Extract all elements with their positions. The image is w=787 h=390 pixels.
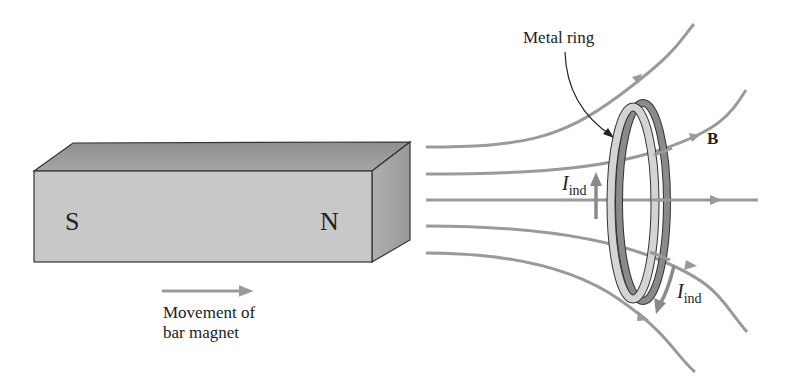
field-line-4	[426, 226, 747, 332]
movement-label-line1: Movement of	[163, 303, 255, 322]
induced-current-label-upper: Iind	[561, 172, 587, 198]
field-line-5	[426, 253, 695, 372]
south-pole-label: S	[65, 207, 79, 236]
movement-label-line2: bar magnet	[163, 323, 239, 342]
metal-ring-label: Metal ring	[523, 28, 595, 47]
induced-current-label-lower: Iind	[676, 280, 702, 306]
bar-magnet: S N	[34, 142, 410, 262]
arrowhead-icon	[684, 260, 697, 270]
north-pole-label: N	[320, 207, 339, 236]
pointer-arrowhead-icon	[603, 128, 614, 138]
ring-back-fill	[619, 103, 667, 301]
current-arrowhead-up-icon	[590, 172, 602, 186]
field-line-2	[426, 90, 746, 174]
diagram-canvas: S N Movement of bar magnet Metal ri	[0, 0, 787, 390]
ring-label-group: Metal ring	[523, 28, 614, 138]
arrowhead-icon	[710, 195, 722, 205]
induced-current-upper: Iind	[561, 172, 602, 219]
field-label-b: B	[707, 129, 718, 148]
magnet-top-face	[34, 142, 410, 171]
movement-indicator: Movement of bar magnet	[162, 291, 255, 342]
current-arrowhead-down-icon	[654, 298, 666, 314]
magnetic-field-lines	[426, 24, 758, 372]
metal-ring	[611, 103, 667, 301]
arrowhead-icon	[637, 311, 649, 321]
